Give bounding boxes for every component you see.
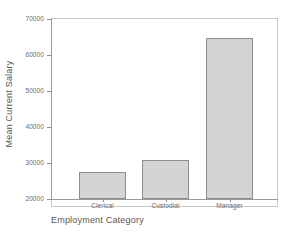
bar-clerical[interactable] xyxy=(79,172,126,199)
y-axis-tick-label: 20000 xyxy=(25,195,44,202)
y-axis-tick xyxy=(47,91,51,92)
y-axis-tick-label: 60000 xyxy=(25,51,44,58)
bar-chart: Mean Current Salary 20000300004000050000… xyxy=(0,0,292,233)
x-axis-tick-label: Custodial xyxy=(136,202,196,209)
y-axis-tick xyxy=(47,199,51,200)
y-axis-tick xyxy=(47,55,51,56)
y-axis-title: Mean Current Salary xyxy=(0,0,18,207)
x-axis-tick-label: Clerical xyxy=(73,202,133,209)
y-axis-tick xyxy=(47,19,51,20)
x-axis-title: Employment Category xyxy=(51,215,144,225)
y-axis-tick xyxy=(47,127,51,128)
y-axis-tick-label: 30000 xyxy=(25,159,44,166)
y-axis-line xyxy=(51,18,52,200)
x-axis-line xyxy=(51,199,278,200)
x-axis-tick-label: Manager xyxy=(200,202,260,209)
y-axis-tick-label: 50000 xyxy=(25,87,44,94)
y-axis-title-label: Mean Current Salary xyxy=(4,60,14,147)
y-axis-tick-label: 70000 xyxy=(25,15,44,22)
y-axis-tick xyxy=(47,163,51,164)
bar-manager[interactable] xyxy=(206,38,253,199)
y-axis-tick-label: 40000 xyxy=(25,123,44,130)
bar-custodial[interactable] xyxy=(142,160,189,199)
